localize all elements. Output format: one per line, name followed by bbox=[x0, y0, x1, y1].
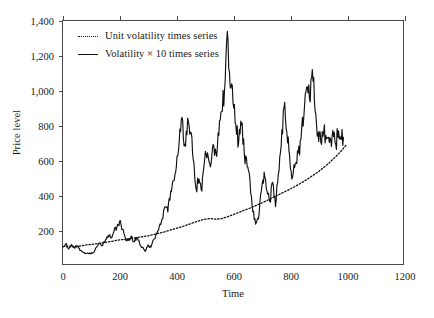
y-axis-title: Price level bbox=[8, 0, 26, 265]
y-axis-tick-mark bbox=[59, 21, 63, 22]
y-axis-tick-label: 1,000 bbox=[25, 86, 63, 97]
y-axis-tick-label: 1,400 bbox=[25, 16, 63, 27]
x-axis-tick-mark bbox=[120, 16, 121, 21]
x-axis-tick-mark bbox=[63, 16, 64, 21]
x-axis-tick-mark bbox=[177, 16, 178, 21]
y-axis-title-text: Price level bbox=[12, 110, 23, 156]
x-axis-title-text: Time bbox=[222, 288, 244, 299]
chart-figure: Price level Unit volatility times series… bbox=[0, 0, 434, 318]
y-axis-tick-mark bbox=[59, 231, 63, 232]
x-axis-tick-mark bbox=[405, 16, 406, 21]
chart-legend: Unit volatility times series Volatility … bbox=[77, 27, 219, 63]
x-axis-tick-label: 1000 bbox=[338, 264, 359, 282]
x-axis-tick-label: 0 bbox=[60, 264, 65, 282]
y-axis-tick-label: 600 bbox=[25, 156, 63, 167]
x-axis-title: Time bbox=[62, 288, 404, 299]
x-axis-tick-label: 200 bbox=[112, 264, 128, 282]
legend-line-solid-icon bbox=[77, 49, 99, 59]
y-axis-tick-label: 400 bbox=[25, 191, 63, 202]
x-axis-tick-mark bbox=[291, 16, 292, 21]
legend-item-label: Unit volatility times series bbox=[105, 31, 218, 42]
plot-area: Unit volatility times series Volatility … bbox=[62, 20, 404, 265]
series-line-2 bbox=[63, 31, 344, 253]
y-axis-tick-mark bbox=[59, 161, 63, 162]
y-axis-tick-label: 1,200 bbox=[25, 51, 63, 62]
legend-item: Unit volatility times series bbox=[77, 27, 219, 45]
y-axis-tick-label: 200 bbox=[25, 226, 63, 237]
y-axis-tick-mark bbox=[59, 126, 63, 127]
x-axis-tick-mark bbox=[234, 16, 235, 21]
legend-item: Volatility × 10 times series bbox=[77, 45, 219, 63]
y-axis-tick-label: 800 bbox=[25, 121, 63, 132]
y-axis-tick-mark bbox=[59, 196, 63, 197]
x-axis-tick-label: 800 bbox=[283, 264, 299, 282]
x-axis-tick-label: 400 bbox=[169, 264, 185, 282]
x-axis-tick-mark bbox=[348, 16, 349, 21]
legend-line-dotted-icon bbox=[77, 31, 99, 41]
x-axis-tick-label: 1200 bbox=[395, 264, 416, 282]
legend-item-label: Volatility × 10 times series bbox=[105, 49, 219, 60]
x-axis-tick-label: 600 bbox=[226, 264, 242, 282]
y-axis-tick-mark bbox=[59, 56, 63, 57]
y-axis-tick-mark bbox=[59, 91, 63, 92]
